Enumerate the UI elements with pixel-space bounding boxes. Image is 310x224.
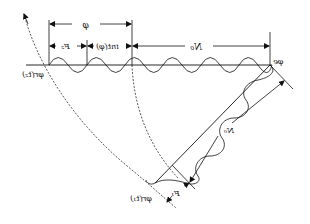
diagonal-perp-bottom [172, 165, 195, 189]
diagonal-perp-top [270, 65, 293, 89]
phi-r-t2-label: φr(t₂) [22, 70, 44, 79]
int-phi-label: int(φ) [96, 42, 119, 51]
phi-e-label: φe [273, 57, 284, 66]
phi-label: φ [82, 20, 89, 30]
phi-r-t1-label: φr(t₁) [130, 194, 152, 203]
f1-label: F₁ [171, 189, 181, 198]
diagram-canvas: φ F₂ int(φ) N₀ φe N₀ F₁ φr(t₂) φr(t₁) [0, 0, 310, 224]
phase-diagram: φ F₂ int(φ) N₀ φe N₀ F₁ φr(t₂) φr(t₁) [0, 0, 310, 224]
n0-top-label: N₀ [190, 42, 203, 52]
n0-diag-label: N₀ [223, 126, 235, 135]
f2-label: F₂ [61, 42, 71, 51]
n0-diag-arrow-top [232, 81, 284, 123]
diagonal-wave [146, 65, 273, 184]
dashed-arc-inner [132, 65, 178, 178]
arc-arrowhead [24, 14, 28, 24]
